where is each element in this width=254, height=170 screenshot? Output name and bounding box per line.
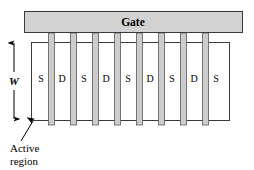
gate-finger	[137, 33, 143, 125]
width-dimension-label: W	[9, 75, 20, 87]
multifinger-mosfet-layout-figure: Gate S D S D S D S D S W Active region	[0, 0, 254, 170]
gate-finger	[181, 33, 187, 125]
active-region-label-line1: Active	[10, 142, 39, 154]
active-region-label-line2: region	[10, 155, 39, 167]
width-dimension: W	[9, 43, 20, 119]
terminal-label: D	[190, 73, 197, 84]
terminal-label: D	[146, 73, 153, 84]
terminal-label: D	[58, 73, 65, 84]
gate-finger	[159, 33, 165, 125]
terminal-label: D	[102, 73, 109, 84]
terminal-label-group: S D S D S D S D S	[38, 73, 219, 84]
gate-finger	[71, 33, 77, 125]
terminal-label: S	[38, 73, 44, 84]
gate-finger	[49, 33, 55, 125]
layout-diagram-canvas: Gate S D S D S D S D S W Active region	[0, 0, 254, 170]
gate-finger	[93, 33, 99, 125]
active-region-callout: Active region	[10, 121, 39, 167]
terminal-label: S	[169, 73, 175, 84]
terminal-label: S	[213, 73, 219, 84]
gate-finger	[203, 33, 209, 125]
gate-label: Gate	[121, 16, 145, 28]
gate-finger	[115, 33, 121, 125]
active-region-leader-line	[21, 121, 33, 141]
terminal-label: S	[81, 73, 87, 84]
terminal-label: S	[125, 73, 131, 84]
